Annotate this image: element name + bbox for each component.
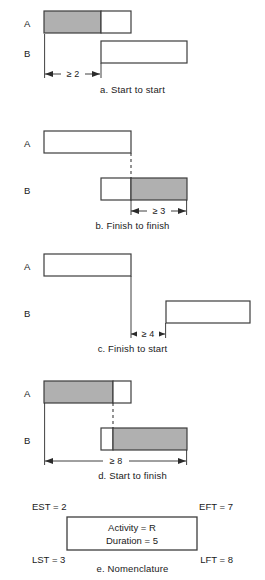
panel-d-row-label-b: B <box>24 435 30 446</box>
panel-start-to-start: A B ≥ 2 a. Start to start <box>0 0 265 100</box>
panel-b-bar-b-open <box>101 178 131 200</box>
panel-b-arrow-right-icon <box>178 208 186 214</box>
panel-start-to-finish: A B ≥ 8 d. Start to finish <box>0 370 265 475</box>
panel-d-caption: d. Start to finish <box>0 470 265 481</box>
panel-a-bar-a-shaded <box>44 11 101 33</box>
panel-a-caption: a. Start to start <box>0 84 265 95</box>
panel-d-graphic: A B ≥ 8 <box>0 370 265 475</box>
panel-c-graphic: A B ≥ 4 <box>0 243 265 348</box>
label-eft: EFT = 7 <box>199 501 233 512</box>
panel-a-dimension-label: ≥ 2 <box>67 69 79 79</box>
panel-c-arrow-right-icon <box>158 331 165 337</box>
panel-b-bar-a <box>44 131 131 153</box>
panel-d-bar-a-open <box>113 381 131 403</box>
panel-a-bar-b <box>101 41 187 63</box>
panel-finish-to-start: A B ≥ 4 c. Finish to start <box>0 243 265 348</box>
panel-d-bar-b-open <box>101 428 113 450</box>
panel-a-row-label-b: B <box>24 48 30 59</box>
panel-c-bar-a <box>44 254 131 276</box>
panel-d-arrow-left-icon <box>45 458 53 464</box>
label-est: EST = 2 <box>32 501 66 512</box>
panel-d-arrow-right-icon <box>178 458 186 464</box>
panel-e-caption: e. Nomenclature <box>0 563 265 574</box>
panel-d-bar-b-shaded <box>113 428 187 450</box>
panel-b-row-label-b: B <box>24 185 30 196</box>
panel-a-bar-a-open <box>101 11 131 33</box>
panel-a-arrow-right-icon <box>92 71 100 77</box>
activity-node-line2: Duration = 5 <box>106 535 158 546</box>
panel-a-row-label-a: A <box>24 18 31 29</box>
panel-c-bar-b <box>166 301 250 323</box>
panel-c-row-label-b: B <box>24 308 30 319</box>
activity-node-line1: Activity = R <box>108 522 156 533</box>
panel-b-row-label-a: A <box>24 138 31 149</box>
panel-b-bar-b-shaded <box>131 178 187 200</box>
panel-c-arrow-left-icon <box>131 331 138 337</box>
panel-a-arrow-left-icon <box>45 71 53 77</box>
panel-b-dimension-label: ≥ 3 <box>153 206 165 216</box>
panel-nomenclature: EST = 2 EFT = 7 LST = 3 LFT = 8 Activity… <box>0 495 265 580</box>
panel-c-row-label-a: A <box>24 261 31 272</box>
panel-c-caption: c. Finish to start <box>0 343 265 354</box>
panel-b-graphic: A B ≥ 3 <box>0 120 265 225</box>
panel-finish-to-finish: A B ≥ 3 b. Finish to finish <box>0 120 265 225</box>
panel-b-arrow-left-icon <box>131 208 139 214</box>
panel-c-dimension-label: ≥ 4 <box>142 329 154 339</box>
panel-d-row-label-a: A <box>24 388 31 399</box>
panel-b-caption: b. Finish to finish <box>0 220 265 231</box>
panel-d-bar-a-shaded <box>44 381 113 403</box>
panel-d-dimension-label: ≥ 8 <box>110 456 122 466</box>
